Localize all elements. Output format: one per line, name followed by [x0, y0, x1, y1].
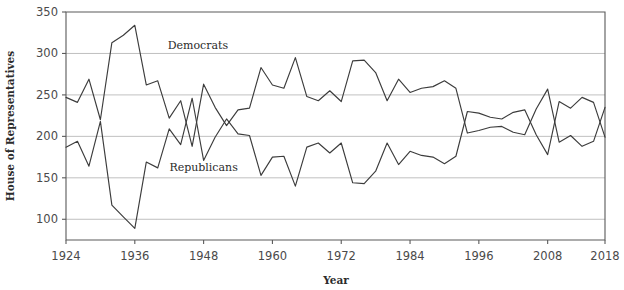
x-tick-label-1936: 1936	[120, 249, 149, 263]
y-tick-label-150: 150	[36, 171, 58, 185]
y-tick-label-300: 300	[36, 46, 58, 60]
x-tick-label-1996: 1996	[464, 249, 493, 263]
x-tick-label-1972: 1972	[327, 249, 356, 263]
x-tick-label-2018: 2018	[590, 249, 619, 263]
house-of-representatives-line-chart: 100150200250300350 192419361948196019721…	[0, 0, 624, 290]
axes-group	[66, 12, 605, 240]
x-tick-label-1924: 1924	[51, 249, 80, 263]
gridlines-group	[66, 53, 605, 219]
annotation-label-democrats: Democrats	[168, 39, 229, 52]
y-tick-label-100: 100	[36, 212, 58, 226]
x-tick-label-1948: 1948	[189, 249, 218, 263]
x-tick-label-2008: 2008	[533, 249, 562, 263]
y-tick-label-350: 350	[36, 5, 58, 19]
series-group	[66, 25, 605, 228]
series-line-democrats	[66, 25, 605, 146]
y-axis-title: House of Representatives	[4, 51, 16, 201]
y-axis-tick-labels: 100150200250300350	[36, 5, 58, 226]
annotation-label-republicans: Republicans	[169, 161, 238, 174]
x-tick-label-1960: 1960	[258, 249, 287, 263]
x-tick-label-1984: 1984	[395, 249, 424, 263]
tick-marks-group	[62, 12, 605, 244]
x-axis-title: Year	[322, 274, 349, 286]
x-axis-tick-labels: 192419361948196019721984199620082018	[51, 249, 619, 263]
series-line-republicans	[66, 97, 605, 228]
y-tick-label-250: 250	[36, 88, 58, 102]
y-tick-label-200: 200	[36, 129, 58, 143]
plot-frame	[66, 12, 605, 240]
chart-container: 100150200250300350 192419361948196019721…	[0, 0, 624, 290]
